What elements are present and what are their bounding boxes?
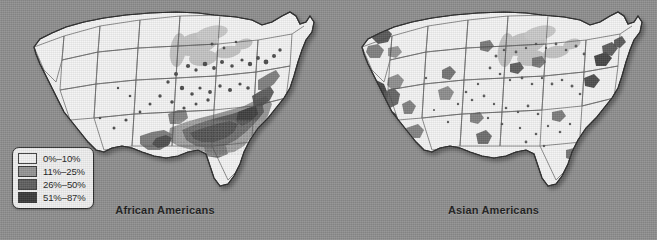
us-choropleth-asian-americans	[330, 0, 657, 205]
legend-swatch	[18, 192, 37, 203]
legend-row: 26%–50%	[18, 178, 86, 191]
legend-label: 0%–10%	[43, 154, 80, 164]
legend-swatch	[18, 153, 37, 164]
map-canvas-asian-americans	[330, 0, 657, 205]
legend-label: 11%–25%	[43, 167, 85, 177]
legend-label: 26%–50%	[43, 180, 86, 190]
map-caption-asian-americans: Asian Americans	[330, 204, 657, 216]
map-panel-african-americans: 0%–10% 11%–25% 26%–50% 51%–87% African A…	[0, 0, 330, 240]
legend-label: 51%–87%	[43, 193, 86, 203]
legend-row: 11%–25%	[18, 165, 86, 178]
legend-row: 51%–87%	[18, 191, 86, 204]
legend-swatch	[18, 179, 37, 190]
legend-row: 0%–10%	[18, 152, 86, 165]
legend-swatch	[18, 166, 37, 177]
african-americans-legend: 0%–10% 11%–25% 26%–50% 51%–87%	[12, 147, 94, 209]
map-panel-asian-americans: 0%–2% 3%–5% 6%–10% 11%–37% Asian America…	[330, 0, 657, 240]
